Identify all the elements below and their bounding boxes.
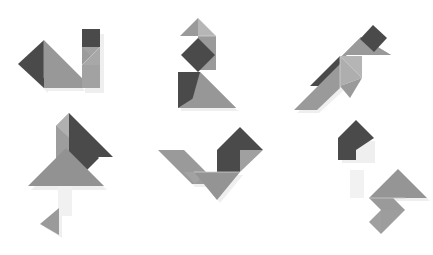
figure-cat bbox=[18, 24, 128, 104]
figure-swan bbox=[178, 18, 268, 113]
medium-triangle-head bbox=[338, 120, 374, 138]
small-triangle-head bbox=[198, 18, 216, 36]
medium-triangle-tail bbox=[217, 150, 240, 172]
rooster-tangram-svg bbox=[158, 126, 288, 211]
figure-bird bbox=[322, 118, 432, 246]
flying-bird-tangram-svg bbox=[294, 22, 406, 114]
cat-tangram-svg bbox=[18, 24, 128, 104]
tangram-sheet bbox=[0, 0, 433, 255]
bird-tangram-svg bbox=[322, 118, 432, 246]
small-triangle-foot bbox=[40, 208, 59, 235]
small-triangle-foot-lower bbox=[369, 210, 381, 234]
small-triangle-foot-upper bbox=[381, 210, 405, 234]
small-triangle-beak bbox=[180, 18, 198, 36]
shadow bbox=[350, 170, 364, 198]
parallelogram-wing-lower bbox=[294, 64, 340, 110]
rabbit-tangram-svg bbox=[28, 108, 128, 238]
medium-triangle-head bbox=[217, 127, 263, 150]
square-body-upper bbox=[338, 138, 356, 160]
square-ear bbox=[82, 29, 100, 47]
figure-flying-bird bbox=[294, 22, 406, 114]
small-triangle-comb bbox=[240, 150, 263, 172]
small-triangle-head bbox=[18, 40, 44, 88]
large-triangle-wing bbox=[369, 169, 427, 198]
figure-rabbit bbox=[28, 108, 128, 238]
figure-rooster bbox=[158, 126, 288, 211]
swan-tangram-svg bbox=[178, 18, 268, 113]
large-triangle-body-lower bbox=[44, 40, 82, 88]
shadow bbox=[58, 186, 72, 216]
